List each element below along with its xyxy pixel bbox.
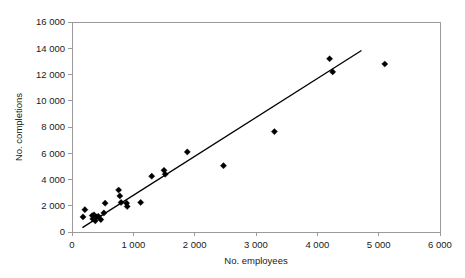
data-point xyxy=(117,193,123,199)
data-point xyxy=(271,128,277,134)
y-axis-title: No. completions xyxy=(13,93,24,161)
data-point xyxy=(327,56,333,62)
x-axis-tick-label: 0 xyxy=(69,239,74,250)
x-axis-tick-label: 1 000 xyxy=(121,239,145,250)
y-axis-tick-label: 14 000 xyxy=(36,43,65,54)
x-axis-tick-label: 6 000 xyxy=(428,239,452,250)
data-point xyxy=(82,207,88,213)
data-point xyxy=(80,214,86,220)
trend-line xyxy=(82,50,361,227)
x-axis-tick-label: 5 000 xyxy=(367,239,391,250)
y-axis-tick-label: 8 000 xyxy=(41,121,65,132)
y-axis-tick-label: 2 000 xyxy=(41,200,65,211)
data-point xyxy=(138,199,144,205)
data-point xyxy=(382,61,388,67)
data-point-group xyxy=(80,56,388,224)
x-axis-title: No. employees xyxy=(224,255,288,266)
y-axis-tick-label: 4 000 xyxy=(41,174,65,185)
data-point xyxy=(116,187,122,193)
y-axis-tick-label: 16 000 xyxy=(36,16,65,27)
x-axis-tick-label: 4 000 xyxy=(305,239,329,250)
y-axis-tick-label: 0 xyxy=(60,226,65,237)
y-axis-tick-label: 10 000 xyxy=(36,95,65,106)
data-point xyxy=(184,149,190,155)
y-axis-tick-label: 6 000 xyxy=(41,148,65,159)
data-point xyxy=(220,163,226,169)
chart-canvas: 02 0004 0006 0008 00010 00012 00014 0001… xyxy=(0,0,465,278)
x-axis-tick-label: 3 000 xyxy=(244,239,268,250)
x-axis-tick-label: 2 000 xyxy=(183,239,207,250)
y-axis-tick-label: 12 000 xyxy=(36,69,65,80)
data-point xyxy=(102,200,108,206)
scatter-chart: 02 0004 0006 0008 00010 00012 00014 0001… xyxy=(0,0,465,278)
data-point xyxy=(149,173,155,179)
